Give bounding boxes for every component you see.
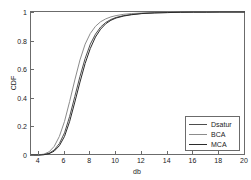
x-tick-label: 16 bbox=[189, 157, 197, 164]
x-tick bbox=[218, 151, 219, 155]
legend-item-bca: BCA bbox=[189, 130, 236, 139]
x-tick bbox=[141, 151, 142, 155]
y-tick bbox=[30, 41, 34, 42]
cdf-chart-figure: 468101214161820 00.20.40.60.81 db CDF Ds… bbox=[0, 0, 251, 180]
x-tick-label: 6 bbox=[62, 157, 66, 164]
y-tick-label: 0.8 bbox=[17, 37, 30, 44]
legend-label: MCA bbox=[211, 140, 227, 149]
x-tick-label: 12 bbox=[137, 157, 145, 164]
legend-label: Dsatur bbox=[211, 120, 232, 129]
x-tick-label: 4 bbox=[36, 157, 40, 164]
y-tick-label: 0.6 bbox=[17, 66, 30, 73]
x-axis-title: db bbox=[133, 168, 141, 175]
x-tick-label: 10 bbox=[111, 157, 119, 164]
x-tick bbox=[115, 151, 116, 155]
x-tick-label: 20 bbox=[240, 157, 248, 164]
x-tick bbox=[192, 151, 193, 155]
legend-line-swatch bbox=[189, 124, 207, 125]
y-tick bbox=[30, 69, 34, 70]
legend-line-swatch bbox=[189, 144, 207, 145]
x-tick bbox=[38, 151, 39, 155]
legend-item-mca: MCA bbox=[189, 140, 236, 149]
x-tick-label: 8 bbox=[87, 157, 91, 164]
y-tick bbox=[30, 12, 34, 13]
y-tick-label: 0 bbox=[23, 152, 30, 159]
x-tick bbox=[89, 151, 90, 155]
x-tick bbox=[244, 151, 245, 155]
y-tick bbox=[30, 98, 34, 99]
y-tick bbox=[30, 126, 34, 127]
x-tick bbox=[167, 151, 168, 155]
chart-legend: DsaturBCAMCA bbox=[185, 116, 240, 151]
x-tick-label: 14 bbox=[163, 157, 171, 164]
y-axis-title: CDF bbox=[10, 76, 17, 90]
y-tick-label: 0.2 bbox=[17, 123, 30, 130]
y-tick-label: 0.4 bbox=[17, 94, 30, 101]
legend-label: BCA bbox=[211, 130, 225, 139]
y-tick bbox=[30, 155, 34, 156]
x-tick bbox=[64, 151, 65, 155]
legend-item-dsatur: Dsatur bbox=[189, 120, 236, 129]
x-tick-label: 18 bbox=[214, 157, 222, 164]
legend-line-swatch bbox=[189, 134, 207, 135]
y-tick-label: 1 bbox=[23, 9, 30, 16]
